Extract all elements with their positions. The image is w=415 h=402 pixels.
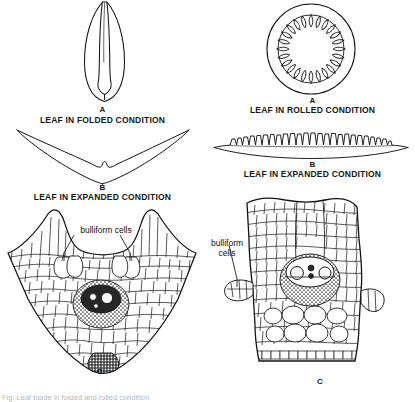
expanded-leaf-v-outline-icon (14, 128, 192, 186)
figure-footer-caption: Fig. Leaf blade in folded and rolled con… (2, 393, 149, 402)
expanded-leaf-flat-outline-icon (211, 130, 411, 162)
panel-right-b-title: LEAF IN EXPANDED CONDITION (210, 170, 415, 179)
transverse-section-rolled-diagram (205, 195, 415, 375)
panel-right-a-rolled-leaf (259, 2, 363, 98)
bulliform-cells-label-right-line1: bulliform (211, 238, 243, 248)
panel-left-b-title: LEAF IN EXPANDED CONDITION (0, 193, 205, 202)
bulliform-cells-label-right-line2: cells (218, 248, 235, 258)
panel-left-a-letter: A (0, 106, 205, 114)
panel-left-a-folded-leaf (72, 0, 138, 106)
folded-leaf-outline-icon (72, 0, 138, 106)
panel-left-b-expanded-leaf (14, 128, 192, 186)
panel-right-b-expanded-leaf (211, 130, 411, 162)
bulliform-cells-label-left: bulliform cells (63, 226, 149, 236)
panel-right-c-transverse-section (205, 195, 415, 375)
bulliform-cells-label-right: bulliform cells (200, 239, 254, 258)
panel-right-a-title: LEAF IN ROLLED CONDITION (210, 106, 415, 115)
panel-left-a-title: LEAF IN FOLDED CONDITION (0, 116, 205, 125)
panel-left-c-letter: C (70, 368, 130, 376)
rolled-leaf-circle-icon (259, 2, 363, 98)
panel-right-c-letter: C (290, 378, 350, 386)
